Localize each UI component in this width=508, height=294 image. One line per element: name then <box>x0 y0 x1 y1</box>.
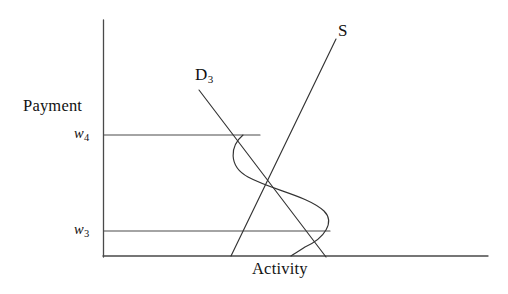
demand-subscript: 3 <box>208 73 214 85</box>
demand-symbol: D <box>195 65 207 84</box>
w4-axis-tick-label: w4 <box>74 126 89 143</box>
x-axis-label: Activity <box>252 261 308 278</box>
demand-curve-label: D3 <box>195 66 213 85</box>
supply-curve-s <box>231 39 336 256</box>
w4-subscript: 4 <box>84 132 89 143</box>
w3-axis-tick-label: w3 <box>74 222 89 239</box>
w3-subscript: 3 <box>84 228 89 239</box>
w4-symbol: w <box>74 125 84 141</box>
supply-curve-label: S <box>338 22 347 39</box>
economics-diagram: Payment Activity w4 w3 D3 S <box>0 0 508 294</box>
demand-curve-d3 <box>199 90 326 257</box>
w3-symbol: w <box>74 221 84 237</box>
diagram-canvas <box>0 0 508 294</box>
y-axis-label: Payment <box>23 98 82 115</box>
